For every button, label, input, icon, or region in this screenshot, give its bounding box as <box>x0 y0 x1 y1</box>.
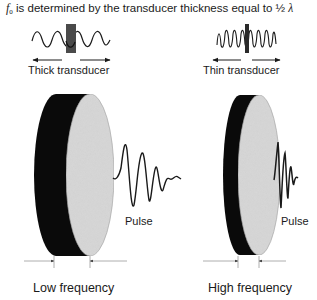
thin-disc-illustration <box>203 95 298 268</box>
low-pulse-label: Pulse <box>125 215 153 227</box>
low-frequency-caption: Low frequency <box>33 281 114 295</box>
thin-transducer-label: Thin transducer <box>203 64 279 76</box>
disc-face <box>66 94 114 256</box>
thick-transducer-label: Thick transducer <box>28 64 109 76</box>
high-pulse-label: Pulse <box>281 215 309 227</box>
thin-element-bar <box>245 24 249 53</box>
thick-disc-illustration <box>24 94 181 268</box>
thin-transducer-illustration <box>213 24 280 60</box>
low-frequency-pulse-icon <box>113 145 181 207</box>
disc-face <box>238 95 280 255</box>
high-frequency-caption: High frequency <box>208 281 292 295</box>
diagram-canvas <box>0 0 317 300</box>
thick-element-bar <box>66 24 76 53</box>
thick-transducer-illustration <box>32 24 110 60</box>
